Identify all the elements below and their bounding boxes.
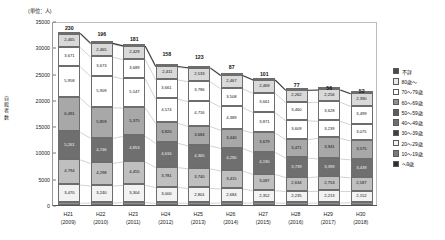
legend-item[interactable]: 60～69歳 <box>393 97 443 107</box>
bar-column[interactable]: 2,4693,6613,8713,6794,1903,0872,352101 <box>253 78 275 205</box>
bar-column[interactable]: 2,4293,6895,5475,3754,8534,4553,304181 <box>123 44 145 205</box>
bar-segment[interactable]: 3,000 <box>156 187 178 203</box>
bar-segment[interactable]: 4,716 <box>188 101 210 126</box>
bar-segment[interactable]: 3,740 <box>188 168 210 188</box>
bar-segment[interactable]: 3,871 <box>253 112 275 132</box>
bar-segment[interactable]: 3,470 <box>58 184 80 202</box>
bar-segment[interactable]: 3,684 <box>188 126 210 145</box>
bar-segment[interactable]: 6,491 <box>58 97 80 131</box>
bar-segment[interactable]: 2,533 <box>188 68 210 81</box>
bar-segment[interactable]: 3,673 <box>91 56 113 75</box>
bar-segment[interactable] <box>253 202 275 205</box>
bar-segment[interactable]: 4,574 <box>156 98 178 122</box>
bar-segment[interactable]: 2,152 <box>351 191 373 202</box>
bar-column[interactable]: 2,4653,6735,9095,8594,7464,2983,240196 <box>91 41 113 205</box>
bar-column[interactable]: 2,4673,5084,3893,4404,2903,4152,68487 <box>221 73 243 205</box>
bar-segment[interactable]: 3,399 <box>318 158 340 176</box>
bar-segment[interactable]: 4,298 <box>91 162 113 185</box>
bar-segment[interactable]: 2,587 <box>351 177 373 191</box>
legend-item[interactable]: 10～19歳 <box>393 148 443 158</box>
bar-segment[interactable]: 4,190 <box>253 152 275 174</box>
bar-segment[interactable]: 4,365 <box>188 145 210 168</box>
bar-segment[interactable]: 3,575 <box>351 140 373 159</box>
bar-segment[interactable]: 3,075 <box>351 124 373 140</box>
bar-segment[interactable]: 5,375 <box>123 107 145 135</box>
bar-segment[interactable]: 3,689 <box>123 59 145 78</box>
bar-segment[interactable]: 4,746 <box>91 138 113 163</box>
legend-item[interactable]: 30～39歳 <box>393 128 443 138</box>
bar-segment[interactable]: 4,455 <box>123 161 145 184</box>
bar-segment[interactable]: 5,909 <box>91 76 113 107</box>
legend-item[interactable]: ～9歳 <box>393 159 443 169</box>
bar-segment[interactable]: 3,304 <box>123 184 145 201</box>
legend-item[interactable]: 50～59歳 <box>393 107 443 117</box>
bar-column[interactable]: 2,4113,6614,5743,8204,6163,7813,000158 <box>156 64 178 205</box>
bar-segment[interactable] <box>123 202 145 205</box>
legend-item[interactable]: 20～29歳 <box>393 138 443 148</box>
bar-segment[interactable]: 2,801 <box>188 187 210 202</box>
bar-segment[interactable]: 2,465 <box>91 43 113 56</box>
bar-column[interactable]: 2,5333,7864,7163,6844,3653,7402,801123 <box>188 66 210 205</box>
bar-segment[interactable]: 2,467 <box>221 75 243 88</box>
bar-segment[interactable] <box>286 202 308 205</box>
bar-segment[interactable]: 5,547 <box>123 78 145 107</box>
bar-segment[interactable]: 3,671 <box>58 47 80 66</box>
bar-segment[interactable]: 2,262 <box>286 90 308 102</box>
bar-segment[interactable]: 2,753 <box>318 176 340 190</box>
bar-segment[interactable] <box>318 202 340 205</box>
bar-segment[interactable]: 3,628 <box>318 101 340 120</box>
bar-segment[interactable]: 4,290 <box>221 148 243 171</box>
bar-segment[interactable]: 3,499 <box>351 106 373 124</box>
bar-segment[interactable]: 3,786 <box>188 81 210 101</box>
bar-segment[interactable]: 3,508 <box>221 88 243 106</box>
bar-segment[interactable]: 2,429 <box>123 46 145 59</box>
bar-segment[interactable]: 2,213 <box>318 190 340 202</box>
bar-segment[interactable]: 3,941 <box>318 137 340 158</box>
bar-column[interactable]: 2,2563,6283,2393,9413,3992,7532,21356 <box>318 87 340 205</box>
bar-segment[interactable]: 3,739 <box>286 157 308 177</box>
bar-segment[interactable]: 4,794 <box>58 159 80 184</box>
bar-segment[interactable]: 2,469 <box>253 80 275 93</box>
bar-segment[interactable]: 3,440 <box>221 129 243 147</box>
bar-column[interactable]: 2,2623,4603,6093,4713,7392,6342,23577 <box>286 88 308 205</box>
bar-segment[interactable]: 3,439 <box>351 159 373 177</box>
bar-column[interactable]: 2,4653,6715,9586,4915,2614,7943,470230 <box>58 32 80 205</box>
bar-segment[interactable]: 3,460 <box>286 102 308 120</box>
bar-segment[interactable]: 3,239 <box>318 120 340 137</box>
bar-segment[interactable] <box>188 202 210 205</box>
bar-segment[interactable]: 2,235 <box>286 191 308 203</box>
bar-segment[interactable]: 4,389 <box>221 106 243 129</box>
bar-segment[interactable]: 3,471 <box>286 139 308 157</box>
bar-segment-value: 5,859 <box>97 120 107 124</box>
bar-segment[interactable]: 3,661 <box>253 93 275 112</box>
bar-segment[interactable] <box>351 202 373 205</box>
bar-segment[interactable]: 2,411 <box>156 66 178 79</box>
bar-segment[interactable]: 3,661 <box>156 79 178 98</box>
bar-segment[interactable]: 2,465 <box>58 34 80 47</box>
legend-item[interactable]: 40～49歳 <box>393 117 443 127</box>
bar-segment[interactable] <box>91 202 113 205</box>
bar-segment[interactable]: 4,853 <box>123 135 145 161</box>
bar-segment[interactable]: 2,634 <box>286 177 308 191</box>
bar-segment[interactable]: 3,679 <box>253 132 275 151</box>
bar-segment[interactable]: 4,616 <box>156 142 178 166</box>
bar-segment[interactable]: 3,781 <box>156 167 178 187</box>
bar-segment[interactable]: 3,415 <box>221 170 243 188</box>
bar-segment[interactable]: 2,684 <box>221 188 243 202</box>
bar-segment[interactable]: 3,820 <box>156 122 178 142</box>
bar-column[interactable]: 2,3903,4993,0753,5753,4392,5872,15252 <box>351 91 373 205</box>
bar-segment[interactable]: 3,609 <box>286 120 308 139</box>
bar-segment[interactable] <box>156 202 178 205</box>
bar-segment[interactable]: 3,087 <box>253 174 275 190</box>
bar-segment[interactable] <box>221 202 243 205</box>
bar-segment[interactable]: 2,390 <box>351 93 373 106</box>
bar-segment[interactable]: 3,240 <box>91 185 113 202</box>
legend-item[interactable]: 80歳～ <box>393 76 443 86</box>
legend-item[interactable]: 70～79歳 <box>393 87 443 97</box>
bar-segment[interactable]: 5,859 <box>91 107 113 138</box>
bar-segment[interactable]: 2,352 <box>253 190 275 202</box>
bar-segment[interactable]: 5,261 <box>58 131 80 159</box>
legend-item[interactable]: 不詳 <box>393 66 443 76</box>
bar-segment[interactable]: 5,958 <box>58 66 80 97</box>
bar-segment[interactable] <box>58 202 80 205</box>
